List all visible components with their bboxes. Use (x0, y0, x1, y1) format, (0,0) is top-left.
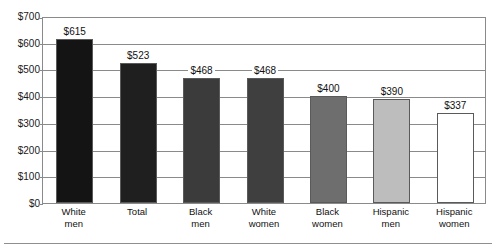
bar[interactable] (437, 113, 474, 203)
bar-value-label: $615 (42, 26, 107, 37)
plot-area: $615$523$468$468$400$390$337 (42, 17, 486, 204)
y-axis-tickmark (39, 204, 43, 205)
bar-chart-figure: $0$100$200$300$400$500$600$700 $615$523$… (0, 0, 496, 251)
y-axis-tick-label: $100 (0, 172, 40, 182)
x-axis-label: Hispanicwomen (423, 206, 486, 230)
bottom-divider (4, 243, 492, 244)
y-axis-tick-label: $600 (0, 39, 40, 49)
bar-column[interactable]: $337 (437, 18, 474, 203)
x-axis-category-labels: WhitemenTotalBlackmenWhitewomenBlackwome… (42, 206, 486, 240)
bar[interactable] (120, 63, 157, 203)
bar-value-label: $523 (106, 50, 171, 61)
bar[interactable] (56, 39, 93, 203)
bar-value-label: $468 (233, 65, 298, 76)
y-axis-tick-label: $400 (0, 92, 40, 102)
x-axis-label: Whitewomen (232, 206, 295, 230)
y-axis-tick-label: $500 (0, 65, 40, 75)
y-axis: $0$100$200$300$400$500$600$700 (0, 17, 40, 204)
bar-column[interactable]: $615 (56, 18, 93, 203)
bar-value-label: $337 (423, 100, 488, 111)
x-axis-label: Blackmen (169, 206, 232, 230)
y-axis-tick-label: $300 (0, 119, 40, 129)
bars-group: $615$523$468$468$400$390$337 (43, 18, 485, 203)
bar-column[interactable]: $390 (373, 18, 410, 203)
bar-value-label: $390 (359, 86, 424, 97)
bar-column[interactable]: $523 (120, 18, 157, 203)
x-axis-label: Whitemen (42, 206, 105, 230)
y-axis-tick-label: $0 (0, 199, 40, 209)
bar[interactable] (183, 78, 220, 203)
bar-value-label: $400 (296, 83, 361, 94)
bar[interactable] (373, 99, 410, 203)
bar-column[interactable]: $468 (183, 18, 220, 203)
bar[interactable] (247, 78, 284, 203)
x-axis-label: Total (105, 206, 168, 218)
x-axis-label: Hispanicmen (359, 206, 422, 230)
bar-value-label: $468 (169, 65, 234, 76)
bar-column[interactable]: $400 (310, 18, 347, 203)
bar[interactable] (310, 96, 347, 203)
y-axis-tick-label: $700 (0, 12, 40, 22)
bar-column[interactable]: $468 (247, 18, 284, 203)
y-axis-tick-label: $200 (0, 146, 40, 156)
x-axis-label: Blackwomen (296, 206, 359, 230)
